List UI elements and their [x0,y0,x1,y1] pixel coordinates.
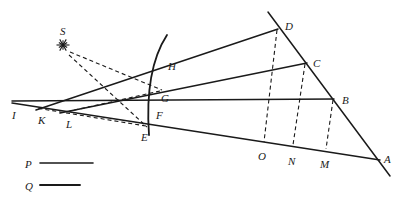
starburst-core [61,43,65,47]
point-label-B: B [342,95,349,106]
ray-S-to-E-dashed [69,55,147,127]
point-label-N: N [288,156,295,167]
point-label-O: O [258,151,266,162]
legend-label-P: P [25,159,32,170]
ray-K-to-D [36,29,278,110]
point-label-L: L [66,119,72,130]
point-label-M: M [320,159,329,170]
drop-C-to-N-dashed [293,64,305,145]
point-label-A: A [384,154,391,165]
figure-canvas: ABCDEFGHIKLMNOS PQ [0,0,400,200]
point-label-C: C [313,58,320,69]
drop-B-to-M-dashed [326,100,333,149]
light-source-starburst-icon [57,39,70,50]
legend-lines-group [40,163,93,185]
point-label-H: H [168,61,176,72]
point-label-E: E [141,132,148,143]
point-label-G: G [161,93,169,104]
solid-lines-group [12,12,390,176]
point-label-D: D [285,21,293,32]
ray-S-to-G-dashed [70,52,162,90]
point-label-I: I [12,110,16,121]
point-label-K: K [38,115,45,126]
ray-E-to-K-dashed [36,108,146,126]
point-label-S: S [60,26,66,37]
drop-D-to-O-dashed [264,30,277,142]
legend-label-Q: Q [25,181,33,192]
dashed-lines-group [36,30,333,149]
ray-I-to-B-horizontal [12,99,334,101]
point-label-F: F [156,110,163,121]
